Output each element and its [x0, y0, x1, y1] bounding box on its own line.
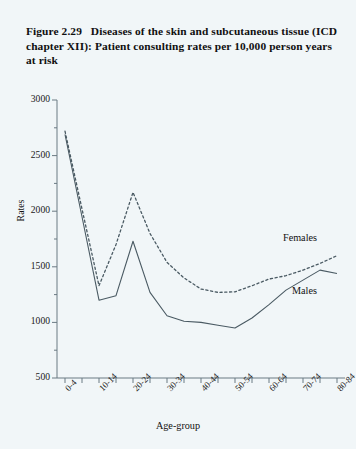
x-axis-title: Age-group — [0, 420, 356, 431]
series-label-females: Females — [283, 232, 317, 243]
series-label-males: Males — [292, 285, 317, 296]
y-tick-label: 2000 — [6, 204, 50, 215]
y-tick-label: 1500 — [6, 260, 50, 271]
series-line-females — [65, 131, 337, 292]
y-axis-title: Rates — [15, 200, 26, 222]
figure-container: Figure 2.29 Diseases of the skin and sub… — [0, 0, 356, 449]
y-tick-label: 3000 — [6, 93, 50, 104]
y-tick-label: 2500 — [6, 149, 50, 160]
y-tick-label: 1000 — [6, 315, 50, 326]
y-tick-label: 500 — [6, 371, 50, 382]
